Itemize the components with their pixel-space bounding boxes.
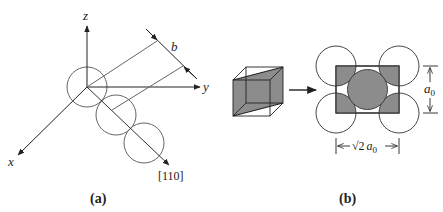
plane-110-view (316, 46, 419, 133)
x-axis (18, 87, 87, 155)
panel-a: z y x b [110] (a) (7, 8, 209, 207)
panel-b: a0 √2a0 (b) (233, 46, 438, 207)
panel-b-caption: (b) (339, 191, 356, 207)
center-atom (348, 70, 388, 110)
z-axis-label: z (82, 8, 88, 23)
width-label: √2a0 (352, 139, 378, 155)
spacing-arrow-upper (147, 30, 157, 40)
spacing-b-label: b (171, 39, 178, 54)
spacing-arrow-lower (184, 67, 196, 78)
direction-110-label: [110] (158, 169, 184, 183)
unit-cube (233, 67, 283, 116)
panel-a-caption: (a) (90, 191, 107, 207)
projection-line-lower (112, 66, 183, 110)
width-dimension: √2a0 (336, 138, 399, 155)
diagram-canvas: z y x b [110] (a) (0, 0, 443, 212)
height-dimension: a0 (423, 66, 438, 113)
projection-line-upper (87, 41, 157, 87)
height-label: a0 (424, 81, 436, 98)
x-axis-label: x (7, 154, 14, 169)
y-axis-label: y (201, 79, 209, 94)
atom-circle-3 (124, 123, 164, 163)
